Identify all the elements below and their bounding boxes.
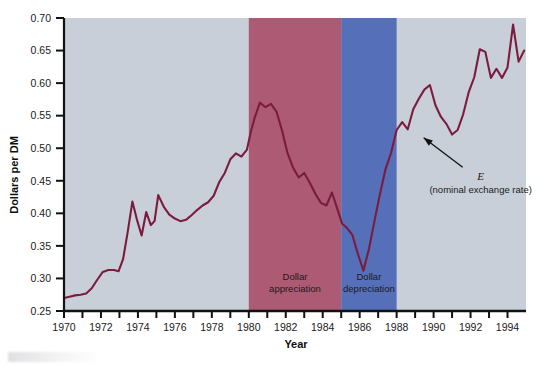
y-axis-title: Dollars per DM <box>8 136 20 214</box>
x-tick-label-11: 1992 <box>459 321 483 333</box>
band-label-2-line2: depreciation <box>343 283 395 294</box>
band-label-1-line2: appreciation <box>269 283 321 294</box>
y-tick-label-5: 0.50 <box>31 142 52 154</box>
y-tick-label-3: 0.40 <box>31 207 52 219</box>
y-tick-label-8: 0.65 <box>31 44 52 56</box>
scan-artifact <box>8 352 100 362</box>
y-tick-label-7: 0.60 <box>31 77 52 89</box>
y-tick-label-1: 0.30 <box>31 272 52 284</box>
x-tick-label-6: 1982 <box>274 321 298 333</box>
x-tick-label-4: 1978 <box>200 321 224 333</box>
band-label-2-line1: Dollar <box>357 271 382 282</box>
y-tick-label-2: 0.35 <box>31 240 52 252</box>
x-tick-label-12: 1994 <box>496 321 520 333</box>
x-axis-title: Year <box>284 338 308 350</box>
x-tick-label-9: 1988 <box>385 321 409 333</box>
y-tick-label-9: 0.70 <box>31 12 52 24</box>
annotation-description-1: (nominal exchange rate) <box>429 184 531 195</box>
x-tick-label-1: 1972 <box>89 321 113 333</box>
x-tick-label-3: 1976 <box>163 321 187 333</box>
shaded-region-2 <box>341 18 396 311</box>
band-label-1-line1: Dollar <box>283 271 308 282</box>
x-tick-label-5: 1980 <box>237 321 261 333</box>
y-tick-label-0: 0.25 <box>31 305 52 317</box>
shaded-region-1 <box>249 18 341 311</box>
x-tick-label-2: 1974 <box>126 321 150 333</box>
annotation-symbol-1: E <box>476 170 484 182</box>
exchange-rate-line-chart: 0.250.300.350.400.450.500.550.600.650.70… <box>0 0 552 378</box>
x-tick-label-7: 1984 <box>311 321 335 333</box>
figure-container: 0.250.300.350.400.450.500.550.600.650.70… <box>0 0 552 378</box>
y-tick-label-4: 0.45 <box>31 175 52 187</box>
y-tick-label-6: 0.55 <box>31 109 52 121</box>
x-tick-label-10: 1990 <box>422 321 446 333</box>
x-tick-label-8: 1986 <box>348 321 372 333</box>
x-tick-label-0: 1970 <box>52 321 76 333</box>
shaded-regions-group <box>249 18 397 311</box>
